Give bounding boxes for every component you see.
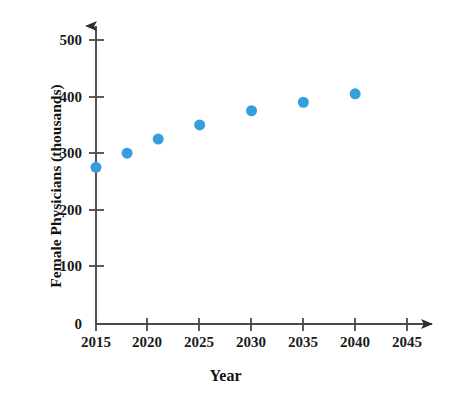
scatter-chart: 500 400 300 200 100 0 2015 2020 2025 203… — [0, 0, 451, 401]
y-axis-title: Female Physicians (thousands) — [47, 56, 65, 316]
data-point — [194, 119, 205, 130]
x-tick-label-2040: 2040 — [340, 334, 370, 351]
x-tick-label-2035: 2035 — [288, 334, 318, 351]
y-tick-label-0: 0 — [38, 316, 82, 333]
x-tick-label-2020: 2020 — [132, 334, 162, 351]
y-tick-label-500: 500 — [38, 32, 82, 49]
data-point-group — [91, 88, 361, 173]
data-point — [246, 105, 257, 116]
data-point — [298, 97, 309, 108]
x-tick-label-2025: 2025 — [184, 334, 214, 351]
data-point — [91, 162, 102, 173]
x-tick-label-2015: 2015 — [81, 334, 111, 351]
x-tick-label-2030: 2030 — [236, 334, 266, 351]
data-point — [350, 88, 361, 99]
x-tick-label-2045: 2045 — [392, 334, 422, 351]
data-point — [122, 148, 133, 159]
data-point — [153, 134, 164, 145]
plot-area — [0, 0, 451, 401]
x-axis-title: Year — [0, 367, 451, 385]
